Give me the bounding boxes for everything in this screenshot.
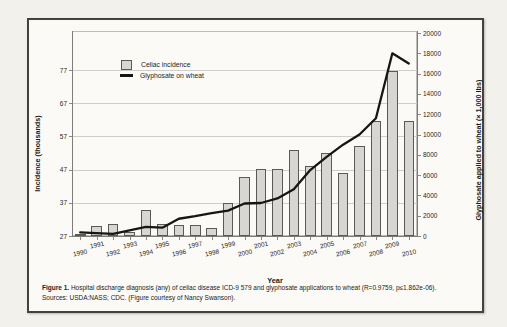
right-axis-title: Glyphosate applied to wheat (× 1,000 lbs… <box>474 91 483 221</box>
x-tick-1990 <box>80 237 81 240</box>
x-tick-label-2009: 2009 <box>379 238 406 250</box>
bar-2005 <box>321 153 332 236</box>
gridline-57 <box>72 136 417 137</box>
right-tick-6000 <box>418 175 421 176</box>
legend: Celiac incidence Glyphosate on wheat <box>121 59 204 81</box>
bar-1999 <box>223 203 234 236</box>
left-tick-37 <box>69 203 72 204</box>
left-tick-57 <box>69 136 72 137</box>
right-tick-label-14000: 14000 <box>423 90 453 97</box>
left-tick-label-67: 67 <box>47 100 67 107</box>
right-tick-label-16000: 16000 <box>423 70 453 77</box>
x-tick-1994 <box>146 237 147 240</box>
legend-label-glyphosate: Glyphosate on wheat <box>140 72 204 79</box>
bar-1998 <box>206 228 217 236</box>
bar-1992 <box>108 224 119 236</box>
bar-swatch-icon <box>121 60 132 70</box>
bar-2001 <box>256 169 267 236</box>
bar-2006 <box>338 173 349 236</box>
right-tick-14000 <box>418 94 421 95</box>
legend-item-glyphosate: Glyphosate on wheat <box>121 70 204 81</box>
bar-2010 <box>404 121 415 236</box>
right-tick-4000 <box>418 195 421 196</box>
x-tick-2000 <box>245 237 246 240</box>
bar-2003 <box>289 150 300 236</box>
bar-2004 <box>305 166 316 236</box>
bar-2008 <box>371 121 382 236</box>
left-tick-label-77: 77 <box>47 67 67 74</box>
x-tick-1992 <box>113 237 114 240</box>
right-tick-10000 <box>418 135 421 136</box>
x-tick-label-1995: 1995 <box>149 238 176 250</box>
legend-item-celiac: Celiac incidence <box>121 59 204 70</box>
x-tick-2003 <box>294 237 295 240</box>
x-tick-label-2001: 2001 <box>247 238 274 250</box>
bar-2007 <box>354 146 365 236</box>
right-tick-label-18000: 18000 <box>423 50 453 57</box>
figure-caption: Figure 1. Hospital discharge diagnosis (… <box>42 283 476 303</box>
right-tick-18000 <box>418 53 421 54</box>
bar-2002 <box>272 169 283 236</box>
gridline-47 <box>72 170 417 171</box>
x-tick-1998 <box>212 237 213 240</box>
x-tick-label-1993: 1993 <box>116 238 143 250</box>
x-tick-1991 <box>97 237 98 240</box>
left-tick-label-57: 57 <box>47 133 67 140</box>
y-axis-line <box>72 31 73 237</box>
right-tick-label-20000: 20000 <box>423 30 453 37</box>
x-tick-2005 <box>327 237 328 240</box>
bar-1995 <box>157 224 168 236</box>
x-tick-label-1991: 1991 <box>83 238 110 250</box>
right-tick-16000 <box>418 74 421 75</box>
right-tick-0 <box>418 236 421 237</box>
x-tick-1996 <box>179 237 180 240</box>
left-tick-77 <box>69 70 72 71</box>
left-tick-27 <box>69 236 72 237</box>
left-tick-label-37: 37 <box>47 199 67 206</box>
right-tick-20000 <box>418 33 421 34</box>
right-tick-label-0: 0 <box>423 233 453 240</box>
x-tick-label-1999: 1999 <box>215 238 242 250</box>
legend-label-celiac: Celiac incidence <box>141 61 191 68</box>
right-tick-8000 <box>418 155 421 156</box>
right-tick-12000 <box>418 114 421 115</box>
line-swatch-icon <box>120 74 133 77</box>
right-tick-label-6000: 6000 <box>423 172 453 179</box>
caption-text: Hospital discharge diagnosis (any) of ce… <box>69 284 436 291</box>
x-tick-1993 <box>130 237 131 240</box>
x-tick-label-1997: 1997 <box>182 238 209 250</box>
x-tick-2004 <box>310 237 311 240</box>
left-tick-67 <box>69 103 72 104</box>
gridline-67 <box>72 103 417 104</box>
x-tick-2010 <box>409 237 410 240</box>
x-tick-label-2005: 2005 <box>313 238 340 250</box>
left-tick-47 <box>69 170 72 171</box>
x-tick-2008 <box>376 237 377 240</box>
bar-2009 <box>387 71 398 236</box>
bar-1996 <box>174 225 185 236</box>
left-tick-label-47: 47 <box>47 166 67 173</box>
x-tick-label-2003: 2003 <box>280 238 307 250</box>
left-tick-label-27: 27 <box>47 233 67 240</box>
right-tick-label-12000: 12000 <box>423 111 453 118</box>
right-tick-label-4000: 4000 <box>423 192 453 199</box>
right-tick-label-2000: 2000 <box>423 212 453 219</box>
caption-sources: Sources: USDA:NASS; CDC. (Figure courtes… <box>42 293 476 303</box>
caption-figure-number: Figure 1. <box>42 284 69 291</box>
bar-1994 <box>141 210 152 236</box>
figure-frame: 2737475767770200040006000800010000120001… <box>27 18 484 313</box>
x-tick-label-2010: 2010 <box>395 246 422 258</box>
x-tick-2007 <box>360 237 361 240</box>
x-tick-2002 <box>277 237 278 240</box>
bar-1991 <box>91 226 102 236</box>
right-tick-label-8000: 8000 <box>423 151 453 158</box>
x-tick-2006 <box>343 237 344 240</box>
left-axis-title: Incidence (thousands) <box>33 89 42 219</box>
right-tick-label-10000: 10000 <box>423 131 453 138</box>
bar-2000 <box>239 177 250 236</box>
x-tick-label-2007: 2007 <box>346 238 373 250</box>
right-tick-2000 <box>418 216 421 217</box>
bar-1997 <box>190 225 201 236</box>
